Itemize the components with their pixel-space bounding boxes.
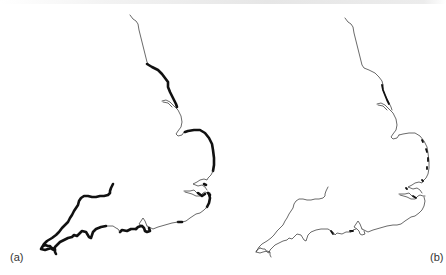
highlight-segment-norfolk [422,140,428,181]
coastline-east-north [345,18,383,85]
coastline-south-east [182,207,207,222]
coastline-south-east [362,197,425,232]
coastline-humber [377,103,399,139]
highlight-segment-wight [136,226,150,232]
highlight-segment-cornwall [41,184,113,254]
coastline-east-north [130,15,149,65]
highlight-segment-east [147,64,177,107]
coastline-east-mid [383,85,392,110]
highlight-segment-norfolk [185,130,214,171]
highlight-segment-east [382,85,389,104]
coastline-cornwall [256,187,328,257]
coastline-map-b [223,0,446,275]
coastline-humber [162,100,184,136]
highlight-segment-essex [204,184,206,185]
map-panel-a: (a) [0,0,223,275]
panel-label-b: (b) [430,251,443,263]
highlight-segment-dorset [120,229,136,232]
panel-label-a: (a) [10,251,23,263]
coastline-dorset [260,229,351,253]
coastline-map-a [0,0,223,275]
map-panel-b: (b) [223,0,446,275]
coastline-solent [351,221,365,235]
coastline-south [147,222,178,229]
highlight-segment-kent [207,194,210,207]
coastline-suffolk [193,171,213,190]
coastline-dorset [106,226,120,232]
coastline-norfolk [399,133,429,193]
coastline-solent [139,218,147,226]
